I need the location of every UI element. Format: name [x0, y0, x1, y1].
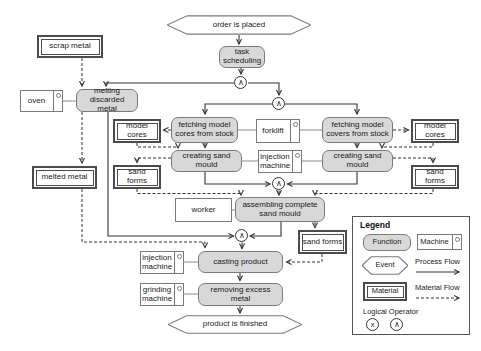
- and-operator-symbol: ∧: [394, 320, 400, 329]
- machine-label: grinding machine: [141, 286, 173, 304]
- function-label: casting product: [213, 258, 267, 267]
- function-removing-excess-metal: removing excess metal: [198, 283, 283, 306]
- function-label: assembling complete sand mould: [238, 201, 322, 219]
- machine-indicator-icon: [455, 237, 460, 242]
- legend-process-flow-label: Process Flow: [415, 257, 460, 266]
- machine-indicator-icon: [56, 93, 61, 98]
- xor-operator-symbol: x: [371, 320, 375, 329]
- and-operator-symbol: ∧: [238, 78, 244, 87]
- material-scrap-metal: scrap metal: [37, 35, 103, 58]
- material-label: melted metal: [36, 170, 94, 186]
- machine-forklift: forklift: [256, 119, 300, 143]
- legend-and-operator: ∧: [390, 318, 403, 331]
- machine-divider: [174, 284, 175, 305]
- function-casting-product: casting product: [198, 251, 283, 273]
- legend-material-label: Material: [367, 286, 404, 298]
- process-flow-arrow-sample: [415, 267, 467, 277]
- material-sand-forms-left: sand forms: [113, 165, 161, 189]
- material-sand-forms-right: sand forms: [411, 165, 459, 189]
- material-label: sand forms: [415, 169, 456, 186]
- resource-label: worker: [191, 206, 215, 215]
- material-label: scrap metal: [41, 39, 100, 55]
- machine-divider: [452, 235, 453, 249]
- function-assembling-complete-sand-mould: assembling complete sand mould: [235, 197, 325, 222]
- machine-label: injection machine: [141, 254, 173, 272]
- function-label: creating sand mould: [325, 152, 390, 170]
- machine-oven: oven: [20, 90, 63, 112]
- event-label: product is finished: [203, 320, 267, 329]
- function-fetching-model-covers: fetching model covers from stock: [322, 117, 393, 143]
- function-creating-sand-mould-right: creating sand mould: [322, 150, 393, 172]
- function-label: melting discarded metal: [79, 87, 135, 114]
- function-melting-discarded-metal: melting discarded metal: [76, 89, 138, 112]
- legend-panel: Legend Function Machine Event Process Fl…: [352, 216, 470, 335]
- event-order-placed: order is placed: [167, 15, 311, 35]
- machine-injection-machine-bottom: injection machine: [140, 251, 184, 274]
- legend-logical-operator-label: Logical Operator: [363, 307, 418, 316]
- event-label: order is placed: [213, 21, 265, 30]
- legend-material-sample: Material: [363, 282, 407, 301]
- and-operator-2: ∧: [272, 97, 285, 110]
- function-label: task scheduling: [222, 48, 262, 66]
- machine-label: forklift: [262, 127, 283, 136]
- material-melted-metal: melted metal: [32, 166, 97, 189]
- material-sand-forms-middle: sand forms: [298, 230, 347, 254]
- machine-divider: [53, 91, 54, 111]
- machine-grinding-machine: grinding machine: [140, 283, 184, 306]
- machine-injection-machine-middle: injection machine: [258, 150, 302, 173]
- material-model-cores-left: model cores: [113, 119, 161, 143]
- function-fetching-model-cores: fetching model cores from stock: [171, 117, 238, 143]
- function-label: creating sand mould: [174, 152, 239, 170]
- function-task-scheduling: task scheduling: [219, 46, 265, 68]
- and-operator-1: ∧: [234, 76, 247, 89]
- machine-divider: [292, 151, 293, 172]
- process-diagram-canvas: order is placed product is finished task…: [0, 0, 481, 351]
- legend-function-sample: Function: [363, 234, 411, 251]
- legend-function-label: Function: [373, 238, 402, 246]
- and-operator-3: ∧: [272, 177, 285, 190]
- and-operator-symbol: ∧: [276, 179, 282, 188]
- machine-divider: [174, 252, 175, 273]
- function-label: fetching model covers from stock: [325, 121, 390, 139]
- legend-machine-label: Machine: [420, 238, 448, 246]
- legend-title: Legend: [360, 220, 390, 230]
- legend-xor-operator: x: [366, 318, 379, 331]
- machine-label: injection machine: [259, 153, 291, 171]
- legend-machine-sample: Machine: [417, 234, 462, 250]
- machine-indicator-icon: [295, 153, 300, 158]
- machine-indicator-icon: [293, 122, 298, 127]
- function-creating-sand-mould-left: creating sand mould: [171, 150, 242, 172]
- machine-indicator-icon: [177, 286, 182, 291]
- material-flow-arrow-sample: [415, 293, 467, 303]
- machine-indicator-icon: [177, 254, 182, 259]
- material-label: sand forms: [302, 234, 344, 251]
- function-label: removing excess metal: [201, 286, 280, 304]
- legend-event-sample: Event: [362, 256, 408, 275]
- legend-material-flow-label: Material Flow: [415, 283, 460, 292]
- material-label: sand forms: [117, 169, 158, 186]
- resource-worker: worker: [175, 198, 232, 222]
- legend-event-label: Event: [375, 261, 394, 269]
- material-model-cores-right: model cores: [411, 119, 459, 143]
- function-label: fetching model cores from stock: [174, 121, 235, 139]
- machine-divider: [290, 120, 291, 142]
- and-operator-4: ∧: [235, 229, 248, 242]
- material-label: model cores: [415, 123, 456, 140]
- and-operator-symbol: ∧: [239, 231, 245, 240]
- and-operator-symbol: ∧: [276, 99, 282, 108]
- machine-label: oven: [28, 97, 45, 106]
- material-label: model cores: [117, 123, 158, 140]
- event-product-finished: product is finished: [168, 315, 302, 334]
